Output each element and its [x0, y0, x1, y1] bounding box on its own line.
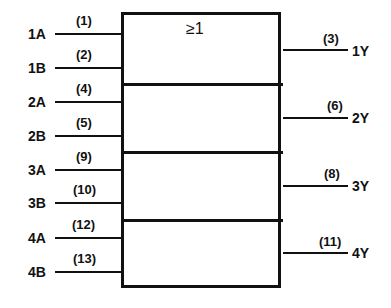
output-label-3y: 3Y: [352, 179, 369, 193]
input-line-2b: [55, 135, 122, 137]
output-line-2y: [283, 117, 348, 119]
output-line-4y: [283, 252, 348, 254]
input-line-4a: [55, 237, 122, 239]
output-label-2y: 2Y: [352, 111, 369, 125]
gate-divider-2: [121, 151, 283, 154]
output-pin-1y: (3): [323, 32, 339, 45]
input-pin-3b: (10): [73, 183, 96, 196]
input-pin-3a: (9): [76, 150, 92, 163]
input-label-3b: 3B: [28, 196, 46, 210]
input-line-3a: [55, 169, 122, 171]
input-line-2a: [55, 101, 122, 103]
output-pin-3y: (8): [324, 167, 340, 180]
input-label-2b: 2B: [28, 129, 46, 143]
input-label-3a: 3A: [28, 163, 46, 177]
input-pin-4a: (12): [72, 218, 95, 231]
input-line-1a: [55, 33, 122, 35]
gate-divider-1: [121, 83, 283, 86]
input-pin-1a: (1): [76, 14, 92, 27]
input-pin-1b: (2): [76, 48, 92, 61]
input-line-1b: [55, 67, 122, 69]
input-line-4b: [55, 271, 122, 273]
input-pin-2b: (5): [76, 116, 92, 129]
input-line-3b: [55, 202, 122, 204]
output-label-4y: 4Y: [352, 246, 369, 260]
output-line-3y: [283, 185, 348, 187]
input-label-4a: 4A: [28, 231, 46, 245]
input-label-1b: 1B: [28, 61, 46, 75]
gate-divider-3: [121, 219, 283, 222]
input-label-2a: 2A: [28, 95, 46, 109]
input-pin-2a: (4): [76, 82, 92, 95]
output-pin-2y: (6): [327, 99, 343, 112]
input-label-1a: 1A: [28, 27, 46, 41]
or-gate-symbol: ≥1: [186, 20, 204, 38]
input-label-4b: 4B: [28, 265, 46, 279]
output-line-1y: [283, 49, 348, 51]
output-label-1y: 1Y: [352, 44, 369, 58]
gate-box: [121, 12, 281, 288]
output-pin-4y: (11): [319, 235, 341, 248]
input-pin-4b: (13): [73, 252, 96, 265]
